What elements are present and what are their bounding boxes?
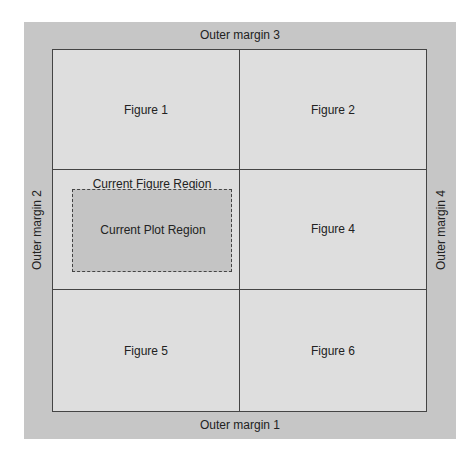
figure-2-label: Figure 2 [311, 103, 355, 117]
current-plot-region: Current Plot Region [72, 189, 232, 272]
outer-margin-2-label: Outer margin 2 [30, 190, 44, 270]
outer-margin-3-label: Outer margin 3 [200, 28, 280, 42]
outer-margin-4-label: Outer margin 4 [434, 190, 448, 270]
current-plot-region-label: Current Plot Region [100, 223, 205, 237]
figure-1-label: Figure 1 [124, 103, 168, 117]
figure-grid: Figure 1 Figure 2 Current Figure Region … [52, 49, 427, 412]
figure-5-label: Figure 5 [124, 344, 168, 358]
figure-4-label: Figure 4 [311, 222, 355, 236]
outer-margin-1-label: Outer margin 1 [200, 418, 280, 432]
figure-6-label: Figure 6 [311, 344, 355, 358]
column-divider [239, 50, 240, 411]
